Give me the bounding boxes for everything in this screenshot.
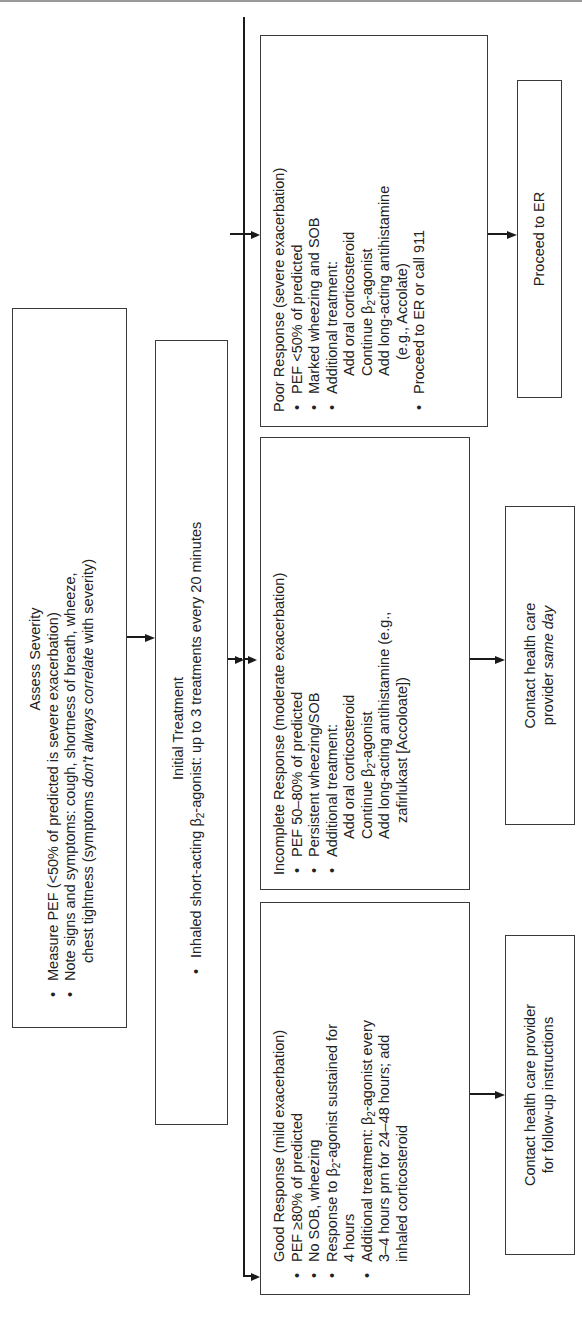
assess-bullet-measure-pef: Measure PEF (<50% of predicted is severe… (45, 319, 63, 999)
good-bullet-no-sob: No SOB, wheezing (306, 911, 324, 1280)
branch-trunk-line (243, 17, 245, 1277)
poor-bullet-additional: Additional treatment: (324, 44, 342, 412)
incomplete-bullet-persistent: Persistent wheezing/SOB (306, 446, 324, 875)
flowchart-canvas: Assess Severity Measure PEF (<50% of pre… (0, 0, 582, 1321)
connector-poor-er (488, 234, 508, 236)
poor-sub-antihistamine: Add long-acting antihistamine (376, 44, 394, 412)
contact-followup-line2: for follow-up instructions (540, 936, 558, 1254)
incomplete-response-title: Incomplete Response (moderate exacerbati… (271, 446, 289, 875)
incomplete-sub-oral: Add oral corticosteroid (341, 446, 359, 875)
good-bullet-pef: PEF ≥80% of predicted (289, 911, 307, 1280)
good-response-box: Good Response (mild exacerbation) PEF ≥8… (260, 902, 470, 1295)
contact-same-day-line2: provider same day (540, 507, 558, 824)
contact-followup-line1: Contact health care provider (522, 936, 540, 1254)
incomplete-response-box: Incomplete Response (moderate exacerbati… (260, 437, 470, 890)
arrowhead-icon (507, 231, 517, 239)
poor-sub-antihistamine-cont: (e.g., Accolate) (394, 44, 412, 412)
contact-followup-box: Contact health care provider for follow-… (505, 935, 575, 1255)
poor-sub-oral: Add oral corticosteroid (341, 44, 359, 412)
proceed-to-er-label: Proceed to ER (531, 81, 549, 397)
arrowhead-icon (495, 1091, 505, 1099)
assess-severity-title: Assess Severity (27, 319, 45, 999)
connector-good-followup (470, 1094, 496, 1096)
assess-bullet-continuation: chest tightness (symptoms don't always c… (80, 319, 98, 999)
good-bullet-additional-treatment: Additional treatment: β2-agonist every3–… (359, 911, 412, 1280)
assess-severity-box: Assess Severity Measure PEF (<50% of pre… (12, 308, 127, 1028)
poor-bullet-proceed-er: Proceed to ER or call 911 (411, 44, 429, 412)
arrowhead-icon (145, 634, 155, 642)
incomplete-sub-antihistamine-cont: zafirlukast [Accoloate]) (394, 446, 412, 875)
poor-response-title: Poor Response (severe exacerbation) (271, 44, 289, 412)
arrowhead-icon (495, 656, 505, 664)
assess-bullet-note-symptoms: Note signs and symptoms: cough, shortnes… (62, 319, 80, 999)
incomplete-sub-continue: Continue β2-agonist (359, 446, 377, 875)
initial-treatment-box: Initial Treatment Inhaled short-acting β… (155, 340, 228, 1125)
contact-same-day-line1: Contact health care (522, 507, 540, 824)
connector-incomplete-sameday (470, 659, 496, 661)
arrowhead-icon (248, 656, 257, 664)
poor-response-box: Poor Response (severe exacerbation) PEF … (260, 35, 488, 427)
incomplete-bullet-pef: PEF 50–80% of predicted (289, 446, 307, 875)
arrowhead-icon (251, 1273, 260, 1281)
poor-sub-continue: Continue β2-agonist (359, 44, 377, 412)
proceed-to-er-box: Proceed to ER (517, 80, 562, 398)
connector-assess-initial (127, 637, 147, 639)
initial-treatment-title: Initial Treatment (170, 351, 188, 1106)
contact-same-day-box: Contact health care provider same day (505, 506, 575, 825)
incomplete-sub-antihistamine: Add long-acting antihistamine (e.g., (376, 446, 394, 875)
poor-bullet-pef: PEF <50% of predicted (289, 44, 307, 412)
poor-bullet-marked: Marked wheezing and SOB (306, 44, 324, 412)
initial-treatment-bullet: Inhaled short-acting β2-agonist: up to 3… (188, 351, 206, 976)
incomplete-bullet-additional: Additional treatment: (324, 446, 342, 875)
good-bullet-response: Response to β2-agonist sustained for4 ho… (324, 911, 359, 1280)
good-response-title: Good Response (mild exacerbation) (271, 911, 289, 1280)
arrowhead-icon (251, 231, 260, 239)
